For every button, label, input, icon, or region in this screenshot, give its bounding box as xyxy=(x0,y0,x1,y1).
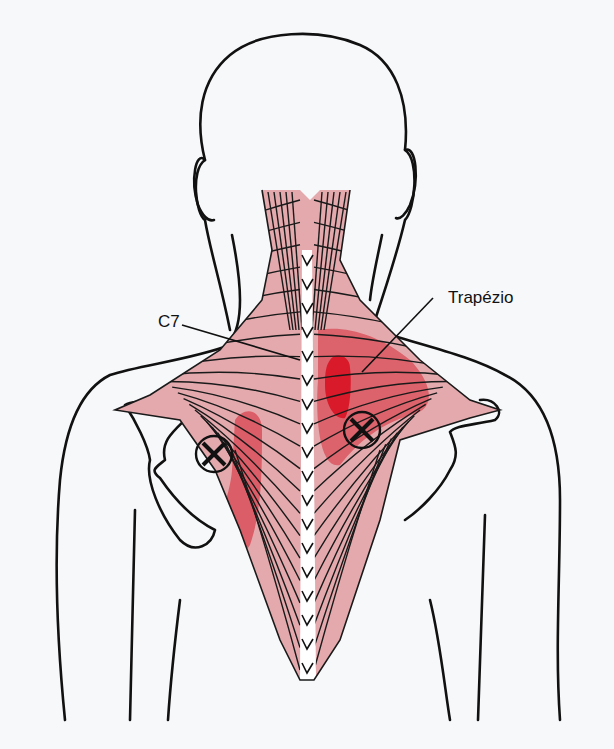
right-arm-crease xyxy=(478,515,485,720)
neck-right xyxy=(370,235,382,300)
left-torso xyxy=(168,600,180,720)
neck-left xyxy=(230,235,240,340)
right-torso xyxy=(430,600,450,720)
left-ear xyxy=(194,158,214,220)
anatomy-figure: C7 Trapézio xyxy=(0,0,614,749)
trapezius-label: Trapézio xyxy=(448,288,514,308)
c7-label: C7 xyxy=(158,312,180,332)
figure-svg xyxy=(0,0,614,749)
left-arm-crease xyxy=(130,510,135,720)
